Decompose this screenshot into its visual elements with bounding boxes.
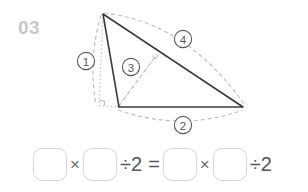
label-text-1: 1: [83, 56, 89, 68]
right-angle-marker-hypotenuse: [152, 55, 159, 59]
triangle-outline: [103, 14, 243, 107]
altitude-dotted-line: [99, 14, 103, 105]
measure-arc-hypotenuse: [104, 13, 244, 104]
answer-box-3[interactable]: [163, 148, 197, 181]
geometry-figure: 1 3 4 2: [0, 0, 308, 136]
answer-box-2[interactable]: [83, 148, 117, 181]
label-text-4: 4: [180, 34, 187, 46]
figure-label-4: 4: [174, 30, 191, 47]
answer-box-4[interactable]: [213, 148, 247, 181]
figure-label-3: 3: [122, 58, 139, 75]
figure-label-1: 1: [77, 52, 94, 69]
equals-sign: =: [148, 154, 160, 174]
divide-expression-1: ÷2: [120, 154, 142, 174]
divide-expression-2: ÷2: [250, 154, 272, 174]
answer-equation: × ÷2 = × ÷2: [0, 136, 308, 192]
multiply-sign-1: ×: [70, 156, 80, 173]
worksheet-problem: 03 1 3: [0, 0, 308, 192]
answer-box-1[interactable]: [33, 148, 67, 181]
figure-label-2: 2: [174, 116, 191, 133]
label-text-2: 2: [180, 120, 186, 132]
label-text-3: 3: [128, 62, 134, 74]
multiply-sign-2: ×: [200, 156, 210, 173]
